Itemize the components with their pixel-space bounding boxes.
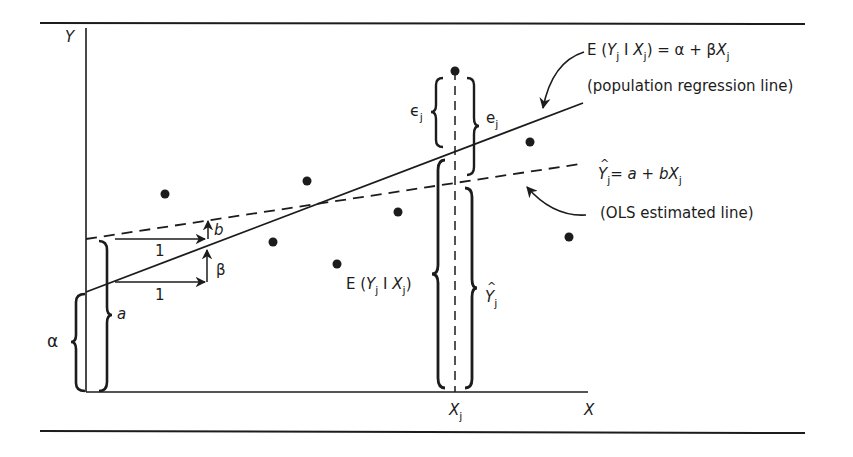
alpha-label: α xyxy=(47,333,58,350)
data-point xyxy=(303,177,312,186)
ols-eq-yhat: Y xyxy=(598,167,607,182)
data-point xyxy=(269,238,278,247)
conditional-expectation-brace xyxy=(432,160,445,388)
cond-exp-y: Y xyxy=(366,275,375,293)
cond-exp-x: X xyxy=(392,275,402,293)
top-rule xyxy=(40,23,805,24)
ols-equation: Yj= a + bXj xyxy=(598,167,682,182)
cond-exp-e: E ( xyxy=(346,275,366,293)
epsilon-label: ϵj xyxy=(410,103,423,119)
cond-exp-close: ) xyxy=(406,275,412,293)
ols-callout-arrow xyxy=(527,187,586,215)
yhat-brace xyxy=(465,188,477,388)
pop-eq-x2-sub: j xyxy=(726,50,729,63)
data-point xyxy=(333,260,342,269)
alpha-brace xyxy=(71,294,85,391)
ols-eq-yhat-sub: j xyxy=(607,174,610,187)
cond-exp-x-sub: j xyxy=(403,284,406,297)
regression-diagram: Y X Xj E (Yj I Xj) = α + βXj (population… xyxy=(0,0,853,457)
cond-exp-bar: I xyxy=(378,275,392,293)
beta-label: β xyxy=(216,263,226,278)
pop-eq-rhs: = α + β xyxy=(653,41,717,59)
population-callout-arrow xyxy=(543,52,584,108)
ols-estimated-line xyxy=(86,164,580,239)
yhat-label: Yj xyxy=(485,290,497,305)
pop-eq-y: Y xyxy=(607,41,616,59)
ols-eq-a: a xyxy=(628,165,637,183)
x-axis-label: X xyxy=(584,403,594,418)
data-point xyxy=(451,67,460,76)
ols-eq-eq: = xyxy=(610,165,627,183)
pop-eq-y-sub: j xyxy=(616,50,619,63)
bottom-rule xyxy=(40,431,805,433)
data-point xyxy=(394,208,403,217)
yhat-sub: j xyxy=(494,297,497,310)
one-bottom-label: 1 xyxy=(155,288,165,303)
residual-main: e xyxy=(486,109,495,127)
a-label: a xyxy=(117,307,126,322)
ols-eq-x-sub: j xyxy=(679,174,682,187)
residual-sub: j xyxy=(495,118,498,131)
one-top-label: 1 xyxy=(155,244,165,259)
pop-eq-e: E ( xyxy=(587,41,607,59)
epsilon-sub: j xyxy=(420,111,423,124)
y-axis-label: Y xyxy=(65,30,74,45)
pop-eq-x: X xyxy=(633,41,643,59)
yhat-main: Y xyxy=(485,290,494,305)
ols-eq-x: X xyxy=(668,165,678,183)
cond-exp-label: E (Yj I Xj) xyxy=(346,277,412,292)
ols-eq-plus: + xyxy=(637,165,659,183)
pop-eq-x-sub: j xyxy=(644,50,647,63)
epsilon-brace xyxy=(431,78,443,147)
population-caption: (population regression line) xyxy=(587,79,793,94)
pop-eq-bar: I xyxy=(619,41,633,59)
xj-tick-label: Xj xyxy=(449,403,462,418)
data-point xyxy=(526,138,535,147)
diagram-canvas xyxy=(0,0,853,457)
population-equation: E (Yj I Xj) = α + βXj xyxy=(587,43,730,58)
data-point xyxy=(565,233,574,242)
xj-sub: j xyxy=(459,410,462,423)
ols-eq-b: b xyxy=(659,165,669,183)
b-label: b xyxy=(214,223,224,238)
pop-eq-x2: X xyxy=(716,41,726,59)
epsilon-main: ϵ xyxy=(410,101,420,120)
data-point xyxy=(161,190,170,199)
e-residual-brace xyxy=(467,78,479,175)
xj-main: X xyxy=(449,401,459,419)
a-brace xyxy=(99,241,112,391)
ols-caption: (OLS estimated line) xyxy=(600,206,754,221)
residual-label: ej xyxy=(486,111,498,126)
cond-exp-y-sub: j xyxy=(375,284,378,297)
